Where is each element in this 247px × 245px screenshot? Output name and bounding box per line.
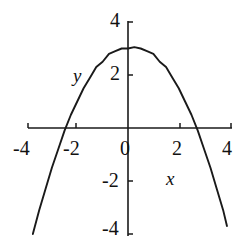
y-tick-label-minus4: -4 <box>102 218 119 238</box>
x-tick-label-minus4: -4 <box>13 138 30 158</box>
y-tick-label-2: 2 <box>110 63 120 83</box>
parabola-plot <box>0 0 247 245</box>
x-axis-label: x <box>166 169 174 188</box>
x-tick-label-zero: 0 <box>120 138 130 158</box>
graph-figure: -4 -2 0 2 4 4 2 -2 -4 y x <box>0 0 247 245</box>
x-tick-label-minus2: -2 <box>63 138 80 158</box>
y-axis-label: y <box>73 66 81 85</box>
x-tick-label-4: 4 <box>222 138 232 158</box>
x-tick-label-2: 2 <box>172 138 182 158</box>
y-tick-label-minus2: -2 <box>102 170 119 190</box>
y-tick-label-4: 4 <box>110 10 120 30</box>
